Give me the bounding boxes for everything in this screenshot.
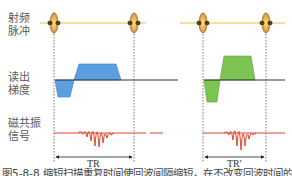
mr-signal-waveform (54, 131, 285, 150)
pulse-sequence-diagram (0, 0, 292, 176)
figure-caption: 图5-8-8 缩短扫描重复时间使回波间隔缩短，在不改变回波时间的前提下提高成像速… (2, 165, 292, 176)
readout-gradient-left (55, 64, 134, 97)
tr-boundary-lines (54, 34, 266, 163)
readout-gradient-right (204, 56, 266, 102)
